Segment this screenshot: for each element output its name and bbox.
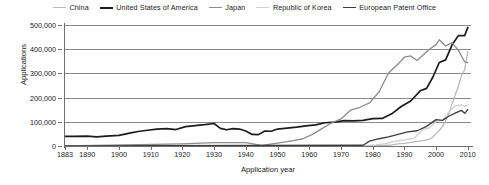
y-tick-mark — [58, 73, 62, 74]
y-tick-mark — [58, 146, 62, 147]
legend-label: Japan — [225, 4, 245, 11]
y-tick-label: 300,000 — [30, 69, 56, 78]
legend-label: China — [69, 4, 88, 11]
y-tick-label: 200,000 — [30, 93, 56, 102]
legend-swatch-icon — [343, 7, 356, 8]
legend-item-united-states-of-america[interactable]: United States of America — [100, 4, 198, 11]
x-tick-mark — [436, 146, 437, 150]
x-tick-label: 1980 — [365, 150, 381, 159]
legend-label: European Patent Office — [359, 4, 436, 11]
legend-item-japan[interactable]: Japan — [209, 4, 246, 11]
x-tick-label: 2010 — [460, 150, 476, 159]
x-tick-mark — [87, 146, 88, 150]
y-tick-label: 400,000 — [30, 45, 56, 54]
x-tick-label: 1910 — [143, 150, 159, 159]
chart-legend: ChinaUnited States of AmericaJapanRepubl… — [0, 4, 489, 11]
y-tick-label: 500,000 — [30, 21, 56, 30]
series-lines — [65, 25, 471, 146]
series-line-united-states-of-america — [65, 27, 468, 136]
x-tick-mark — [341, 146, 342, 150]
x-tick-mark — [246, 146, 247, 150]
x-tick-mark — [309, 146, 310, 150]
x-tick-label: 1960 — [301, 150, 317, 159]
x-tick-label: 1950 — [270, 150, 286, 159]
x-tick-mark — [214, 146, 215, 150]
y-tick-mark — [58, 98, 62, 99]
series-line-japan — [65, 40, 468, 146]
y-tick-mark — [58, 122, 62, 123]
legend-swatch-icon — [100, 7, 113, 9]
legend-swatch-icon — [209, 7, 222, 8]
x-tick-mark — [373, 146, 374, 150]
x-tick-mark — [119, 146, 120, 150]
x-tick-mark — [468, 146, 469, 150]
series-line-republic-of-korea — [65, 105, 468, 146]
x-tick-mark — [182, 146, 183, 150]
legend-swatch-icon — [256, 7, 269, 8]
x-axis-title: Application year — [65, 165, 471, 174]
x-tick-label: 1990 — [396, 150, 412, 159]
legend-swatch-icon — [53, 7, 66, 8]
series-line-european-patent-office — [65, 109, 468, 146]
legend-item-european-patent-office[interactable]: European Patent Office — [343, 4, 436, 11]
legend-item-republic-of-korea[interactable]: Republic of Korea — [256, 4, 331, 11]
y-tick-mark — [58, 49, 62, 50]
x-tick-label: 1900 — [111, 150, 127, 159]
x-tick-mark — [404, 146, 405, 150]
legend-label: United States of America — [116, 4, 198, 11]
x-tick-label: 1940 — [238, 150, 254, 159]
x-tick-mark — [65, 146, 66, 150]
patent-applications-line-chart: ChinaUnited States of AmericaJapanRepubl… — [0, 0, 489, 185]
y-tick-label: 100,000 — [30, 117, 56, 126]
x-tick-mark — [151, 146, 152, 150]
y-axis-title: Applications — [19, 20, 28, 110]
x-tick-mark — [278, 146, 279, 150]
y-tick-label: 0 — [52, 142, 56, 151]
x-tick-label: 1920 — [174, 150, 190, 159]
x-tick-label: 1970 — [333, 150, 349, 159]
x-tick-label: 1890 — [79, 150, 95, 159]
x-tick-label: 1883 — [57, 150, 73, 159]
y-tick-mark — [58, 25, 62, 26]
legend-label: Republic of Korea — [273, 4, 332, 11]
legend-item-china[interactable]: China — [53, 4, 89, 11]
y-axis-tick-labels: 0100,000200,000300,000400,000500,000 — [0, 25, 62, 146]
x-axis-tick-labels: 1883189019001910192019301940195019601970… — [65, 150, 471, 162]
x-tick-label: 2000 — [428, 150, 444, 159]
x-tick-label: 1930 — [206, 150, 222, 159]
